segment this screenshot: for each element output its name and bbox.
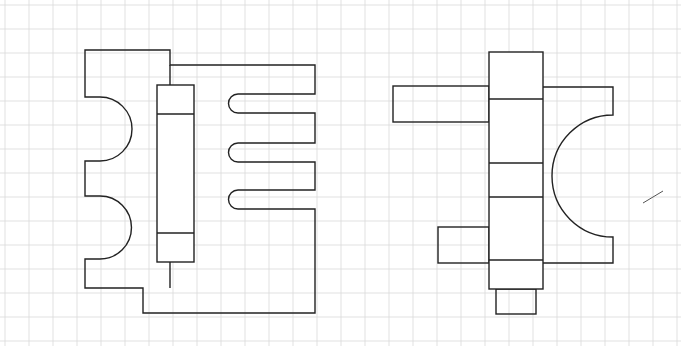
drawing-svg [0,0,681,346]
left-column [157,85,194,262]
right-column [489,52,543,289]
grid-lines [0,0,681,346]
grid-paper-drawing [0,0,681,346]
left-figure-outline [85,50,315,313]
right-flange-arc [543,87,613,263]
right-left-arm [393,86,489,122]
left-figure [85,50,315,313]
right-figure [393,52,613,314]
